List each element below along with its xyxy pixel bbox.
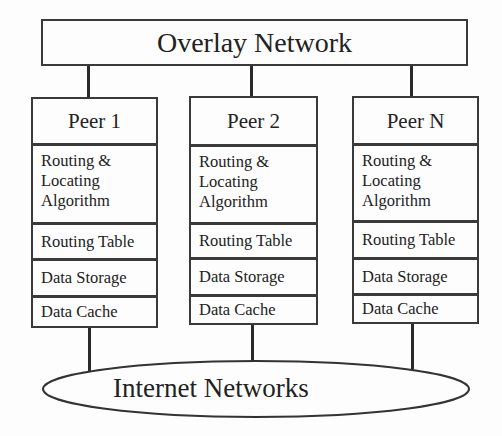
peer-n-data-cache-label: Data Cache: [362, 299, 439, 319]
peer-2-algo-line-3: Algorithm: [199, 192, 268, 212]
peer-2-routing-table: Routing Table: [191, 222, 316, 257]
peer-2-data-cache-label: Data Cache: [199, 300, 276, 320]
peer-n-title: Peer N: [354, 98, 477, 143]
peer-2-title: Peer 2: [191, 98, 316, 144]
peer-n-routing-table: Routing Table: [354, 220, 477, 257]
connector-overlay-peer-2: [250, 66, 253, 98]
peer-2-routing-table-label: Routing Table: [199, 231, 292, 251]
peer-1-title-text: Peer 1: [68, 111, 121, 131]
peer-1-routing-table: Routing Table: [33, 222, 156, 258]
overlay-network-box: Overlay Network: [41, 19, 468, 66]
peer-1-algo-line-1: Routing &: [41, 151, 111, 171]
peer-1-box: Peer 1 Routing & Locating Algorithm Rout…: [31, 97, 158, 328]
overlay-network-label: Overlay Network: [157, 27, 352, 59]
peer-2-algo-line-2: Locating: [199, 172, 258, 192]
connector-peer-1-internet: [88, 328, 91, 372]
peer-2-box: Peer 2 Routing & Locating Algorithm Rout…: [189, 96, 318, 325]
peer-2-data-storage-label: Data Storage: [199, 267, 285, 287]
peer-n-box: Peer N Routing & Locating Algorithm Rout…: [352, 96, 479, 324]
peer-2-algo-line-1: Routing &: [199, 152, 269, 172]
peer-1-data-storage-label: Data Storage: [41, 268, 127, 288]
peer-1-data-cache-label: Data Cache: [41, 302, 118, 322]
peer-n-data-storage: Data Storage: [354, 257, 477, 293]
peer-1-algo-line-3: Algorithm: [41, 191, 110, 211]
connector-overlay-peer-n: [410, 66, 413, 98]
peer-2-routing-locating-algorithm: Routing & Locating Algorithm: [191, 144, 316, 222]
peer-2-data-storage: Data Storage: [191, 257, 316, 294]
peer-n-routing-table-label: Routing Table: [362, 230, 455, 250]
peer-n-algo-line-3: Algorithm: [362, 191, 431, 211]
connector-peer-n-internet: [411, 324, 414, 369]
peer-n-algo-line-2: Locating: [362, 171, 421, 191]
connector-overlay-peer-1: [87, 66, 90, 98]
peer-1-title: Peer 1: [33, 99, 156, 143]
peer-n-routing-locating-algorithm: Routing & Locating Algorithm: [354, 143, 477, 220]
internet-networks-label: Internet Networks: [113, 372, 309, 404]
peer-2-title-text: Peer 2: [227, 111, 280, 131]
peer-n-algo-line-1: Routing &: [362, 151, 432, 171]
peer-2-data-cache: Data Cache: [191, 294, 316, 323]
peer-n-title-text: Peer N: [387, 111, 445, 131]
peer-1-routing-table-label: Routing Table: [41, 232, 134, 252]
peer-1-algo-line-2: Locating: [41, 171, 100, 191]
peer-n-data-storage-label: Data Storage: [362, 267, 448, 287]
peer-1-data-cache: Data Cache: [33, 295, 156, 326]
peer-n-data-cache: Data Cache: [354, 293, 477, 322]
peer-1-routing-locating-algorithm: Routing & Locating Algorithm: [33, 143, 156, 222]
peer-1-data-storage: Data Storage: [33, 258, 156, 295]
connector-peer-2-internet: [251, 325, 254, 362]
